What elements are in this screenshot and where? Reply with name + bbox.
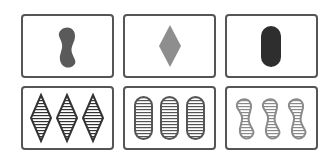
diamond-icon bbox=[83, 95, 103, 141]
diamond-icon bbox=[125, 16, 214, 76]
card-6-three-squiggles-striped[interactable] bbox=[225, 86, 318, 150]
squiggle-icon bbox=[263, 99, 280, 138]
oval-icon bbox=[227, 16, 316, 76]
oval-icon bbox=[135, 97, 152, 139]
card-5-three-ovals-striped[interactable] bbox=[123, 86, 216, 150]
card-3-oval-solid[interactable] bbox=[225, 14, 318, 78]
squiggle-icon bbox=[23, 16, 112, 76]
diamond-icon bbox=[31, 95, 51, 141]
card-4-three-diamonds-striped[interactable] bbox=[21, 86, 114, 150]
card-1-squiggle-solid[interactable] bbox=[21, 14, 114, 78]
diamond-icon bbox=[57, 95, 77, 141]
oval-icon bbox=[161, 97, 178, 139]
oval-icon bbox=[187, 97, 204, 139]
card-2-diamond-solid[interactable] bbox=[123, 14, 216, 78]
squiggle-icon bbox=[289, 99, 306, 138]
squiggle-icon bbox=[237, 99, 254, 138]
